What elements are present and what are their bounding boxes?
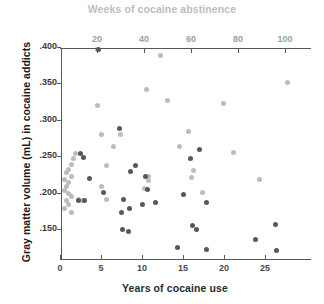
- y-tick-3: [57, 156, 61, 157]
- data-point: [78, 151, 83, 156]
- x-tick-label-10: 10: [128, 263, 156, 273]
- data-point: [133, 163, 138, 168]
- data-point: [253, 237, 258, 242]
- data-point: [273, 222, 278, 227]
- data-point: [231, 150, 236, 155]
- x2-tick-label-100: 100: [271, 34, 299, 44]
- data-point: [177, 144, 182, 149]
- x2-tick-label-40: 40: [130, 34, 158, 44]
- y-tick-1: [57, 83, 61, 84]
- y-tick-label-5: .150: [26, 223, 57, 233]
- data-point: [119, 210, 124, 215]
- data-point: [200, 190, 205, 195]
- y-tick-2: [57, 120, 61, 121]
- data-point: [71, 156, 76, 161]
- x-tick-0: [60, 255, 61, 259]
- data-point: [111, 144, 116, 149]
- data-point: [145, 187, 150, 192]
- x2-tick-20: [97, 49, 98, 53]
- x2-tick-40: [144, 49, 145, 53]
- x-tick-10: [142, 255, 143, 259]
- y-tick-5: [57, 229, 61, 230]
- data-point: [104, 163, 109, 168]
- x2-tick-100: [285, 49, 286, 53]
- x-tick-label-5: 5: [87, 263, 115, 273]
- data-point: [69, 194, 74, 199]
- data-point: [81, 155, 86, 160]
- x2-tick-label-20: 20: [83, 34, 111, 44]
- data-point: [197, 147, 202, 152]
- x2-tick-label-60: 60: [177, 34, 205, 44]
- x-tick-label-15: 15: [169, 263, 197, 273]
- data-point: [99, 132, 104, 137]
- scatter-chart: Weeks of cocaine abstinence Gray matter …: [0, 0, 324, 304]
- data-point: [121, 197, 126, 202]
- data-point: [82, 198, 87, 203]
- data-point: [274, 248, 279, 253]
- x-tick-label-0: 0: [46, 263, 74, 273]
- data-point: [175, 245, 180, 250]
- x-tick-label-25: 25: [251, 263, 279, 273]
- data-point: [87, 176, 92, 181]
- data-point: [257, 177, 262, 182]
- data-point: [69, 174, 74, 179]
- data-point: [127, 206, 132, 211]
- data-point: [120, 227, 125, 232]
- x2-tick-80: [238, 49, 239, 53]
- data-point: [104, 197, 109, 202]
- data-point: [144, 87, 149, 92]
- data-point: [186, 129, 191, 134]
- y-tick-4: [57, 193, 61, 194]
- data-point: [95, 103, 100, 108]
- data-point: [188, 156, 193, 161]
- data-point: [118, 132, 123, 137]
- x-tick-label-20: 20: [210, 263, 238, 273]
- data-point: [158, 53, 163, 58]
- data-point: [194, 227, 199, 232]
- y-tick-label-2: .300: [26, 114, 57, 124]
- data-point: [191, 168, 196, 173]
- data-point: [69, 210, 74, 215]
- x-axis-bottom-line: [60, 259, 311, 260]
- data-point: [204, 200, 209, 205]
- data-point: [221, 101, 226, 106]
- data-point: [140, 202, 145, 207]
- y-axis-line: [61, 48, 62, 259]
- x-tick-25: [265, 255, 266, 259]
- y-tick-label-0: .400: [26, 41, 57, 51]
- data-point: [117, 126, 122, 131]
- data-point: [181, 192, 186, 197]
- data-point: [126, 229, 131, 234]
- x2-tick-label-80: 80: [224, 34, 252, 44]
- data-point: [62, 206, 67, 211]
- data-point: [189, 175, 194, 180]
- y-tick-label-1: .350: [26, 77, 57, 87]
- y-tick-label-4: .200: [26, 187, 57, 197]
- x-tick-20: [224, 255, 225, 259]
- y-tick-label-3: .250: [26, 150, 57, 160]
- data-point: [146, 178, 151, 183]
- data-point: [143, 174, 148, 179]
- data-point: [99, 184, 104, 189]
- y-tick-0: [57, 47, 61, 48]
- x-tick-15: [183, 255, 184, 259]
- data-point: [66, 202, 71, 207]
- data-point: [153, 200, 158, 205]
- data-point: [285, 80, 290, 85]
- x2-tick-60: [191, 49, 192, 53]
- data-point: [101, 190, 106, 195]
- data-point: [165, 98, 170, 103]
- x-tick-5: [101, 255, 102, 259]
- data-point: [204, 247, 209, 252]
- data-point: [128, 169, 133, 174]
